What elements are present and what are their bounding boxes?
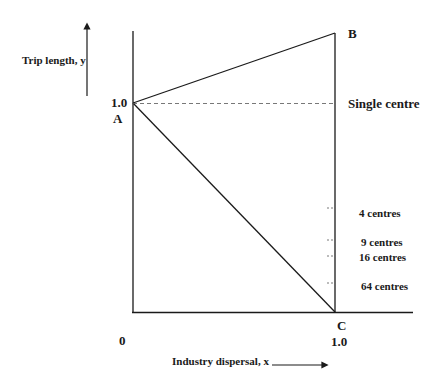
centre-level-label: 64 centres	[361, 281, 408, 292]
x-value-label: 1.0	[331, 335, 347, 348]
y-axis-label: Trip length, y	[22, 55, 86, 66]
centre-level-label: 4 centres	[359, 208, 401, 219]
point-c-label: C	[337, 319, 346, 332]
x-axis-label: Industry dispersal, x	[172, 356, 269, 367]
line-a-to-c	[133, 103, 335, 312]
origin-label: 0	[119, 334, 126, 347]
point-b-label: B	[348, 27, 357, 40]
single-centre-label: Single centre	[348, 97, 420, 110]
centre-level-label: 16 centres	[359, 252, 406, 263]
line-a-to-b	[133, 33, 335, 103]
point-a-label: A	[113, 112, 122, 125]
y-value-label: 1.0	[111, 96, 127, 109]
trip-length-diagram: Trip length, y 1.0 A B Single centre 4 c…	[0, 0, 442, 389]
centre-level-label: 9 centres	[361, 237, 403, 248]
